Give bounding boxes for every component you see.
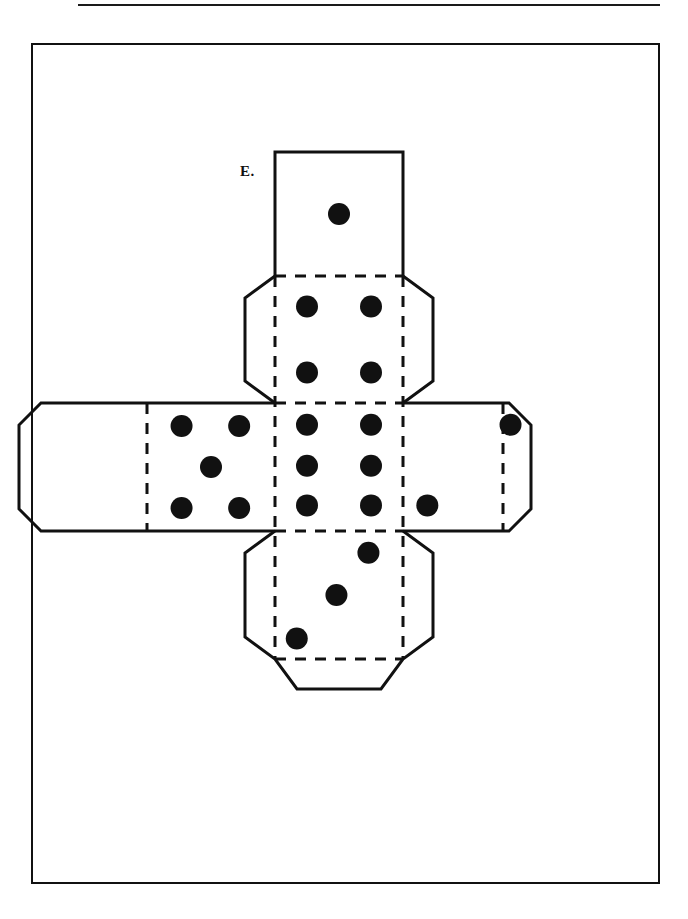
page-border-frame xyxy=(31,43,660,884)
page-canvas: E. xyxy=(0,0,688,919)
figure-label: E. xyxy=(240,163,255,180)
top-horizontal-rule xyxy=(78,4,660,6)
